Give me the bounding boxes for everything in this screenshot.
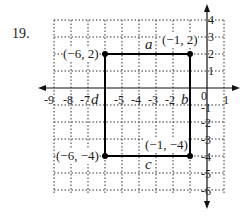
side-label-b: b [181,91,189,108]
vertex-bottom-left [102,153,108,159]
point-label-top-left: (−6, 2) [63,46,99,62]
x-tick: -7 [80,93,90,108]
x-tick: -4 [131,93,141,108]
y-tick: -5 [201,167,211,182]
x-tick: -9 [44,93,54,108]
y-tick: 1 [208,64,214,79]
vertex-bottom-right [187,153,193,159]
point-label-bottom-left: (−6, −4) [56,148,99,164]
point-label-bottom-right: (−1, −4) [145,137,188,153]
x-tick: -3 [148,93,158,108]
x-tick: -2 [165,93,175,108]
x-tick: 1 [223,93,229,108]
vertex-top-left [102,51,108,57]
side-label-c: c [145,156,152,173]
y-tick: 4 [208,13,214,28]
side-label-d: d [91,91,99,108]
point-label-top-right: (−1, 2) [162,32,198,48]
side-label-a: a [145,36,153,53]
vertex-top-right [187,51,193,57]
x-tick: -5 [114,93,124,108]
y-tick: -1 [201,101,211,116]
y-tick: -3 [201,133,211,148]
y-tick: 3 [208,30,214,45]
y-tick: -2 [201,116,211,131]
y-tick: 2 [208,47,214,62]
y-tick: -4 [201,150,211,165]
y-tick: -6 [201,184,211,199]
x-tick: -8 [63,93,73,108]
